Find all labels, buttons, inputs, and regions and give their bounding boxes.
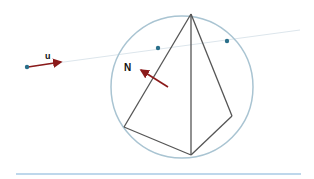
vector-u-arrow	[28, 62, 61, 67]
intersection-dot-2	[225, 39, 229, 43]
vector-N-arrow	[141, 70, 168, 87]
diagram-canvas: u N	[0, 0, 314, 179]
label-u: u	[45, 51, 51, 61]
intersection-dot-1	[156, 46, 160, 50]
bounding-circle	[111, 16, 253, 158]
ray-origin-dot	[25, 65, 29, 69]
label-N: N	[124, 62, 131, 73]
pyramid-edges	[124, 14, 232, 155]
